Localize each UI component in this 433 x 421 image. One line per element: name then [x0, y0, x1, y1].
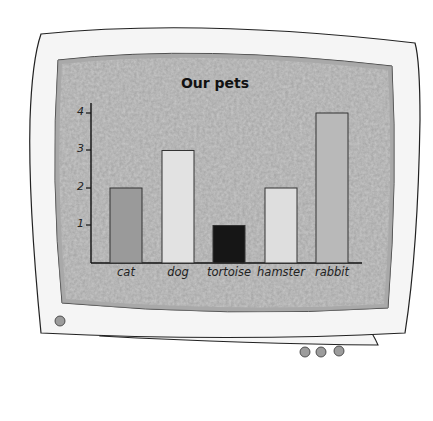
y-tick-label-4: 4	[70, 105, 84, 118]
x-label-tortoise: tortoise	[199, 265, 259, 279]
power-button	[55, 316, 65, 326]
y-tick-label-1: 1	[70, 217, 84, 230]
chart-title: Our pets	[150, 75, 280, 91]
bar-cat	[110, 188, 142, 263]
bar-rabbit	[316, 113, 348, 263]
y-tick-label-3: 3	[70, 142, 84, 155]
control-button-3	[334, 346, 344, 356]
control-button-1	[300, 347, 310, 357]
control-button-2	[316, 347, 326, 357]
y-tick-label-2: 2	[70, 180, 84, 193]
x-label-rabbit: rabbit	[302, 265, 362, 279]
bar-dog	[162, 151, 194, 264]
bar-hamster	[265, 188, 297, 263]
x-label-cat: cat	[96, 265, 156, 279]
bar-tortoise	[213, 226, 245, 264]
monitor-illustration	[0, 0, 433, 421]
